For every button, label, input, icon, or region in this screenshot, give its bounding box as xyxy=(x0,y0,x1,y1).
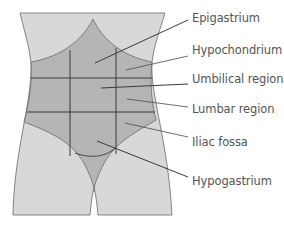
label-umbilical-region: Umbilical region xyxy=(192,74,284,86)
label-epigastrium: Epigastrium xyxy=(192,13,260,25)
label-iliac-fossa: Iliac fossa xyxy=(192,137,248,149)
label-lumbar-region: Lumbar region xyxy=(192,104,275,116)
label-hypochondrium: Hypochondrium xyxy=(192,45,282,57)
label-hypogastrium: Hypogastrium xyxy=(192,176,272,188)
abdominal-regions-diagram: Epigastrium Hypochondrium Umbilical regi… xyxy=(0,0,284,226)
